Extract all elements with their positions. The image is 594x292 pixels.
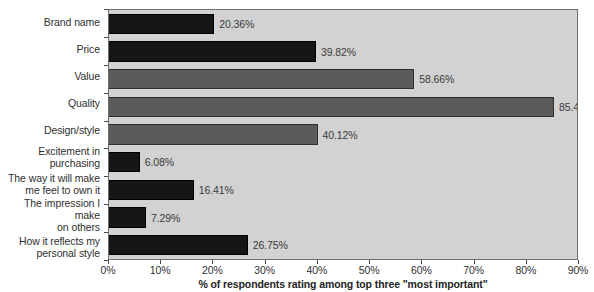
- category-label-price: Price: [0, 36, 104, 63]
- x-axis-tick-label: 20%: [202, 264, 223, 276]
- category-label-way-it-will-make-me-feel: The way it will make me feel to own it: [0, 170, 104, 197]
- bar-value: 58.66%: [108, 69, 414, 89]
- plot-area: 20.36% 39.82% 58.66% 85.41% 40.1: [108, 9, 578, 260]
- bar-impression-i-make-on-others: 7.29%: [108, 207, 146, 227]
- category-axis-labels: Brand name Price Value Quality Design/st…: [0, 9, 104, 260]
- bar-value-label-impression-i-make-on-others: 7.29%: [151, 212, 180, 224]
- y-axis-tick: [104, 9, 108, 10]
- category-label-brand-name: Brand name: [0, 9, 104, 36]
- category-label-excitement-in-purchasing: Excitement in purchasing: [0, 143, 104, 170]
- y-axis-tick: [104, 148, 108, 149]
- bar-quality: 85.41%: [108, 97, 554, 117]
- category-label-impression-i-make-on-others: The impression I make on others: [0, 197, 104, 233]
- x-axis-tick-label: 70%: [463, 264, 484, 276]
- x-axis-tick-label: 30%: [254, 264, 275, 276]
- bar-design-style: 40.12%: [108, 124, 318, 144]
- bar-row-value: 58.66%: [109, 65, 577, 93]
- bar-value-label-excitement-in-purchasing: 6.08%: [145, 156, 174, 168]
- bar-row-design-style: 40.12%: [109, 121, 577, 149]
- category-label-quality: Quality: [0, 90, 104, 117]
- bar-rows: 20.36% 39.82% 58.66% 85.41% 40.1: [109, 10, 577, 259]
- bar-price: 39.82%: [108, 41, 316, 61]
- x-axis-tick-label: 60%: [411, 264, 432, 276]
- y-axis-tick: [104, 37, 108, 38]
- x-axis-tick-label: 10%: [150, 264, 171, 276]
- x-axis-tick-label: 90%: [568, 264, 589, 276]
- y-axis-tick: [104, 232, 108, 233]
- x-axis-tick-labels: 0%10%20%30%40%50%60%70%80%90%: [0, 264, 594, 278]
- bar-row-way-it-will-make-me-feel: 16.41%: [109, 176, 577, 204]
- y-axis-tick: [104, 93, 108, 94]
- x-axis-tick-label: 0%: [101, 264, 116, 276]
- x-axis-title: % of respondents rating among top three …: [108, 278, 578, 290]
- category-label-how-it-reflects-personal-style: How it reflects my personal style: [0, 233, 104, 260]
- bar-value-label-design-style: 40.12%: [323, 129, 358, 141]
- y-axis-tick: [104, 260, 108, 261]
- bar-way-it-will-make-me-feel: 16.41%: [108, 180, 194, 200]
- category-label-value: Value: [0, 63, 104, 90]
- bar-row-impression-i-make-on-others: 7.29%: [109, 204, 577, 232]
- category-label-design-style: Design/style: [0, 117, 104, 144]
- bar-value-label-way-it-will-make-me-feel: 16.41%: [199, 184, 234, 196]
- bar-row-quality: 85.41%: [109, 93, 577, 121]
- y-axis-tick: [104, 121, 108, 122]
- bar-how-it-reflects-personal-style: 26.75%: [108, 235, 248, 255]
- bar-brand-name: 20.36%: [108, 14, 214, 34]
- bar-value-label-quality: 85.41%: [559, 101, 578, 113]
- bar-value-label-price: 39.82%: [321, 46, 356, 58]
- x-axis-tick-label: 50%: [359, 264, 380, 276]
- bar-row-brand-name: 20.36%: [109, 10, 577, 38]
- bar-row-excitement-in-purchasing: 6.08%: [109, 148, 577, 176]
- horizontal-bar-chart: Brand name Price Value Quality Design/st…: [0, 0, 594, 292]
- chart-title-cropped: [108, 0, 408, 1]
- bar-value-label-brand-name: 20.36%: [219, 18, 254, 30]
- y-axis-tick: [104, 204, 108, 205]
- x-axis-tick-label: 80%: [515, 264, 536, 276]
- bar-value-label-how-it-reflects-personal-style: 26.75%: [253, 239, 288, 251]
- bar-value-label-value: 58.66%: [419, 73, 454, 85]
- x-axis-tick-label: 40%: [307, 264, 328, 276]
- bar-row-price: 39.82%: [109, 38, 577, 66]
- bar-row-how-it-reflects-personal-style: 26.75%: [109, 231, 577, 259]
- y-axis-tick: [104, 65, 108, 66]
- bar-excitement-in-purchasing: 6.08%: [108, 152, 140, 172]
- y-axis-tick: [104, 176, 108, 177]
